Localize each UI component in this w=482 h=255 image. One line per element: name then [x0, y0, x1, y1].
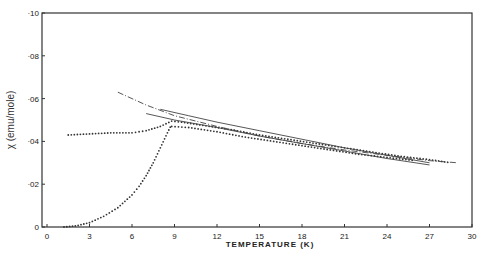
y-tick-label: ·06	[27, 95, 39, 104]
series-dotted-zero-field-cooled-	[63, 126, 171, 228]
y-tick-label: ·02	[27, 180, 39, 189]
x-tick-label: 30	[468, 232, 477, 241]
x-tick-label: 9	[172, 232, 177, 241]
series-dashed-fit	[118, 92, 458, 163]
x-tick-label: 21	[340, 232, 349, 241]
x-axis-label: TEMPERATURE (K)	[226, 240, 315, 249]
series-dotted-lower-branch-	[171, 126, 413, 162]
x-tick-label: 0	[45, 232, 50, 241]
series-dotted-field-cooled-upper-	[67, 120, 448, 163]
plot-frame	[42, 13, 472, 227]
x-tick-label: 6	[130, 232, 135, 241]
y-tick-label: ·04	[27, 137, 39, 146]
x-tick-label: 3	[87, 232, 92, 241]
y-tick-label: 0	[35, 223, 40, 232]
y-axis-label: χ (emu/mole)	[5, 91, 16, 150]
chart: 036912151821242730 0·02·04·06·08·10 TEMP…	[0, 0, 482, 255]
y-tick-label: ·10	[27, 9, 39, 18]
x-tick-label: 24	[383, 232, 392, 241]
x-tick-label: 27	[425, 232, 434, 241]
y-tick-label: ·08	[27, 52, 39, 61]
data-series	[63, 92, 458, 228]
x-tick-label: 12	[213, 232, 222, 241]
